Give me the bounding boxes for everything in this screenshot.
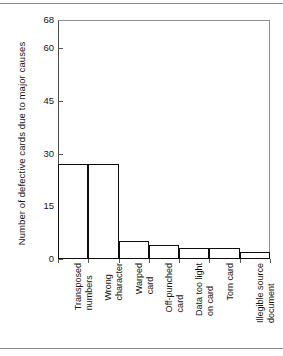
bar: [209, 248, 239, 259]
y-tick-label: 45: [0, 96, 54, 106]
x-axis-label-text: Illegible sourcedocument: [255, 263, 276, 323]
y-tick-label: 60: [0, 43, 54, 53]
bar: [240, 252, 270, 259]
bar: [88, 164, 118, 259]
bar: [179, 248, 209, 259]
x-axis-label-text: Torn card: [225, 263, 236, 301]
x-axis-label: Transposednumbers: [58, 261, 88, 351]
x-axis-label: Illegible sourcedocument: [240, 261, 270, 351]
x-axis-label: Wrongcharacter: [88, 261, 118, 351]
y-tick-label: 15: [0, 201, 54, 211]
pareto-bar-chart: Number of defective cards due to major c…: [0, 4, 283, 347]
y-tick-label: 68: [0, 15, 54, 25]
x-axis-labels: TransposednumbersWrongcharacterWarpedcar…: [58, 261, 270, 351]
x-axis-label: Torn card: [209, 261, 239, 351]
bar: [149, 245, 179, 259]
y-tick-label: 0: [0, 254, 54, 264]
x-axis-label: Off-punchedcard: [149, 261, 179, 351]
y-tick-label: 30: [0, 149, 54, 159]
y-axis-title: Number of defective cards due to major c…: [16, 19, 27, 269]
bar: [58, 164, 88, 259]
bar: [119, 241, 149, 259]
x-axis-label: Data too lighton card: [179, 261, 209, 351]
bars-container: [58, 20, 270, 259]
x-axis-label: Warpedcard: [119, 261, 149, 351]
